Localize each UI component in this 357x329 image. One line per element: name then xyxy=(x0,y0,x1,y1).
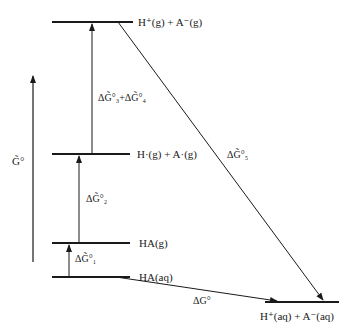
level-label-top: H⁺(g) + A⁻(g) xyxy=(138,17,202,28)
transition-label-dg1: ΔG̃°₁ xyxy=(75,254,96,264)
level-label-ha-gas: HA(g) xyxy=(139,238,168,249)
transition-label-dg2: ΔG̃°₂ xyxy=(86,194,107,204)
transition-label-dg: ΔG° xyxy=(193,296,211,306)
arrow-dg5 xyxy=(118,22,323,300)
energy-diagram-canvas xyxy=(0,0,357,329)
transition-label-dg5: ΔG̃°₅ xyxy=(227,150,248,160)
level-label-ions-aq: H⁺(aq) + A⁻(aq) xyxy=(260,311,334,322)
level-label-radicals: H·(g) + A·(g) xyxy=(137,149,197,160)
transition-label-dg3-dg4: ΔG̃°₃+ΔG̃°₄ xyxy=(98,93,146,103)
level-label-ha-aq: HA(aq) xyxy=(139,272,173,283)
g-axis-label: G̃° xyxy=(12,156,24,167)
